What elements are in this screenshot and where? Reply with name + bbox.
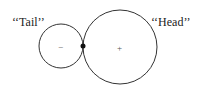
tail-label: ‘‘Tail’’ (12, 15, 45, 29)
head-label: ‘‘Head’’ (151, 15, 191, 29)
tail-sign: − (58, 42, 63, 52)
junction-point (81, 44, 86, 49)
diagram-canvas: − + ‘‘Tail’’ ‘‘Head’’ (0, 0, 200, 89)
head-sign: + (117, 43, 122, 53)
